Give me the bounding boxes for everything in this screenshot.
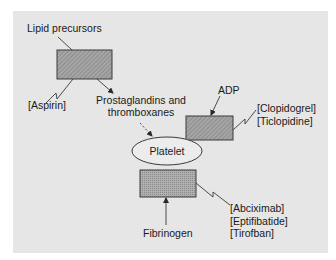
- clopidogrel-inhibition-line: [233, 110, 256, 130]
- cox-enzyme-box: [57, 50, 112, 79]
- gp-inhibitors-label: [Abciximab] [Eptifibatide] [Tirofban]: [230, 202, 288, 240]
- adp-receptor-box: [186, 116, 233, 140]
- adp-label: ADP: [218, 84, 240, 96]
- prostaglandins-label: Prostaglandins and thromboxanes: [86, 94, 196, 118]
- fibrinogen-label: Fibrinogen: [143, 227, 193, 239]
- aspirin-label: [Aspirin]: [28, 99, 66, 111]
- gp-receptor-box: [140, 170, 196, 197]
- ticlopidine-label: [Ticlopidine]: [257, 115, 316, 128]
- prostaglandins-to-platelet-arrow: [140, 123, 152, 136]
- box-to-prostaglandins-arrow: [97, 79, 113, 93]
- adp-inhibitors-label: [Clopidogrel] [Ticlopidine]: [257, 102, 316, 127]
- platelet-label: Platelet: [132, 145, 202, 157]
- abciximab-label: [Abciximab]: [230, 202, 288, 215]
- lipid-precursors-label: Lipid precursors: [27, 22, 102, 34]
- adp-arrow: [211, 96, 220, 115]
- clopidogrel-label: [Clopidogrel]: [257, 102, 316, 115]
- gp-inhibitor-inhibition-line: [196, 183, 230, 205]
- prostaglandins-line1: Prostaglandins and: [86, 94, 196, 106]
- prostaglandins-line2: thromboxanes: [86, 106, 196, 118]
- eptifibatide-label: [Eptifibatide]: [230, 215, 288, 228]
- lipid-to-box-line: [58, 37, 72, 50]
- tirofban-label: [Tirofban]: [230, 227, 288, 240]
